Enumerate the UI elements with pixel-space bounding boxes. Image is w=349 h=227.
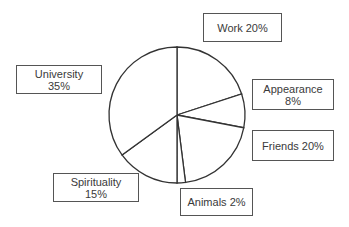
label-university-name: University <box>17 68 101 80</box>
label-spirituality-name: Spirituality <box>54 176 138 188</box>
label-spirituality-value: 15% <box>54 188 138 200</box>
label-appearance: Appearance 8% <box>252 79 334 110</box>
label-work-text: Work 20% <box>204 22 281 34</box>
label-spirituality: Spirituality 15% <box>53 173 139 202</box>
label-appearance-name: Appearance <box>253 83 333 95</box>
label-university-value: 35% <box>17 80 101 92</box>
label-animals: Animals 2% <box>180 188 253 216</box>
label-friends-text: Friends 20% <box>253 140 333 152</box>
label-appearance-value: 8% <box>253 95 333 107</box>
label-work: Work 20% <box>203 13 282 42</box>
label-friends: Friends 20% <box>252 130 334 161</box>
label-animals-text: Animals 2% <box>181 196 252 208</box>
label-university: University 35% <box>16 65 102 94</box>
